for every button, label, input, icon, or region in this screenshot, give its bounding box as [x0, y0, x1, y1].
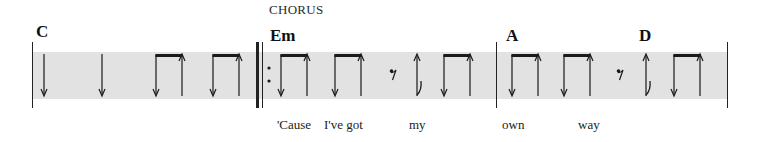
lyric-word: my — [409, 117, 426, 133]
beamed-down-up-strokes-icon — [278, 54, 310, 96]
lyric-word: own — [502, 117, 524, 133]
lyric-word: way — [578, 117, 600, 133]
beamed-down-up-strokes-icon — [509, 54, 541, 96]
lyric-word: 'Cause — [277, 117, 311, 133]
beamed-down-up-strokes-icon — [210, 54, 242, 96]
eighth-rest-icon — [390, 69, 396, 80]
downstroke-icon — [41, 54, 47, 96]
eighth-rest-icon — [617, 69, 623, 80]
repeat-dot-lower — [267, 79, 270, 82]
beamed-down-up-strokes-icon — [671, 54, 703, 96]
beamed-down-up-strokes-icon — [153, 54, 185, 96]
strum-pattern-notation — [0, 0, 759, 142]
repeat-dot-upper — [267, 66, 270, 69]
beamed-down-up-strokes-icon — [561, 54, 593, 96]
beamed-down-up-strokes-icon — [441, 54, 473, 96]
beamed-down-up-strokes-icon — [332, 54, 364, 96]
upstroke-eighth-icon — [643, 54, 650, 96]
lyric-word: I've got — [324, 117, 363, 133]
upstroke-eighth-icon — [414, 54, 421, 96]
downstroke-icon — [99, 54, 105, 96]
